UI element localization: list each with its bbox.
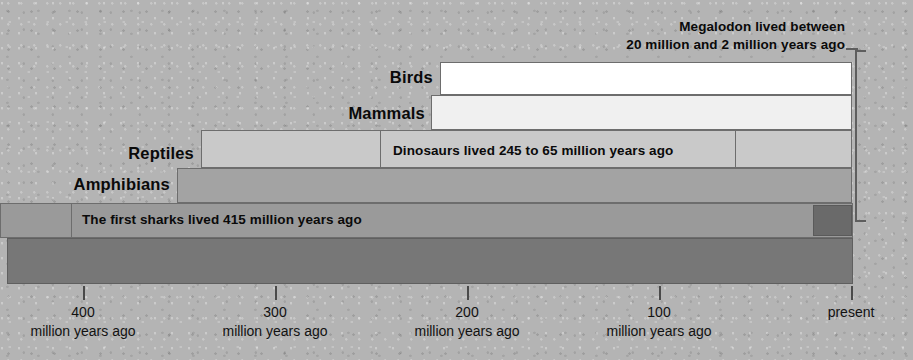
axis-tick-400 [83, 286, 85, 300]
segment-first-sharks-divider [71, 204, 72, 237]
axis-label-100-value: 100 [559, 303, 759, 322]
megalodon-callout-line1: Megalodon lived between [679, 19, 845, 34]
axis-tick-100 [659, 286, 661, 300]
axis-label-present-value: present [771, 303, 913, 322]
row-label-birds: Birds [253, 68, 433, 87]
bar-amphibians [177, 168, 852, 203]
bar-timeline [7, 238, 853, 284]
axis-label-200-value: 200 [367, 303, 567, 322]
axis-label-300: 300 million years ago [175, 303, 375, 341]
row-label-reptiles: Reptiles [14, 144, 194, 163]
axis-label-400: 400 million years ago [0, 303, 183, 341]
megalodon-callout-line2: 20 million and 2 million years ago [626, 37, 845, 52]
axis-label-100: 100 million years ago [559, 303, 759, 341]
axis-label-100-unit: million years ago [559, 322, 759, 341]
megalodon-callout: Megalodon lived between 20 million and 2… [626, 18, 845, 54]
bar-birds [440, 62, 852, 95]
axis-label-300-value: 300 [175, 303, 375, 322]
segment-dinosaurs-end [735, 131, 736, 167]
axis-label-400-value: 400 [0, 303, 183, 322]
axis-label-200: 200 million years ago [367, 303, 567, 341]
megalodon-bracket-stub [846, 48, 858, 50]
axis-label-300-unit: million years ago [175, 322, 375, 341]
axis-label-200-unit: million years ago [367, 322, 567, 341]
segment-megalodon [813, 205, 852, 236]
axis-tick-200 [467, 286, 469, 300]
row-label-amphibians: Amphibians [0, 175, 170, 194]
axis-label-present: present [771, 303, 913, 322]
row-label-mammals: Mammals [225, 104, 425, 123]
axis-tick-300 [275, 286, 277, 300]
axis-label-400-unit: million years ago [0, 322, 183, 341]
timeline-chart: Megalodon lived between 20 million and 2… [0, 0, 913, 360]
sharks-annotation: The first sharks lived 415 million years… [82, 212, 362, 227]
bar-mammals [431, 95, 852, 130]
dinosaurs-annotation: Dinosaurs lived 245 to 65 million years … [393, 143, 673, 158]
axis-tick-present [851, 286, 853, 300]
megalodon-bracket [855, 50, 866, 222]
